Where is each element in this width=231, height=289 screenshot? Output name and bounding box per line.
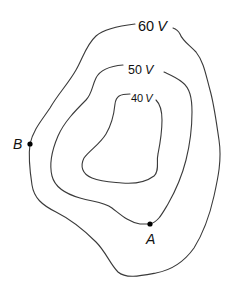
point-b-label: B <box>13 136 22 152</box>
contour-40v-label: 40V <box>131 92 154 104</box>
contour-40v-line <box>82 94 162 183</box>
point-a-label: A <box>145 231 155 247</box>
contour-50v-label: 50V <box>128 63 155 77</box>
contour-40v: 40V <box>82 92 162 183</box>
contour-60v-line <box>29 24 220 276</box>
point-a: A <box>145 221 155 247</box>
contour-60v: 60V <box>29 18 220 276</box>
contour-50v: 50V <box>51 63 192 224</box>
point-b-marker <box>27 141 32 146</box>
equipotential-diagram: 60V 50V 40V B A <box>0 0 231 289</box>
contour-60v-label: 60V <box>138 18 168 34</box>
contour-50v-line <box>51 65 192 224</box>
point-a-marker <box>147 221 152 226</box>
